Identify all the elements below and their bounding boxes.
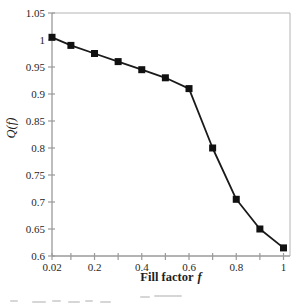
caption-fragment-dash	[85, 300, 93, 302]
data-series	[49, 34, 288, 252]
caption-fragment-dash	[68, 301, 80, 303]
data-point	[233, 196, 240, 203]
data-point	[162, 74, 169, 81]
data-point	[138, 66, 145, 73]
y-tick-label: 0.85	[26, 115, 46, 127]
data-point	[256, 226, 263, 233]
figure: 1.0510.950.90.850.80.750.70.650.60.020.2…	[0, 0, 304, 306]
caption-fragment-dash	[100, 301, 111, 303]
plot-frame	[52, 13, 290, 256]
x-tick-label: 0.8	[229, 261, 243, 273]
qf-vs-fill-factor-chart: 1.0510.950.90.850.80.750.70.650.60.020.2…	[0, 0, 304, 306]
x-tick-label: 0.02	[42, 261, 61, 273]
y-tick-label: 0.8	[31, 142, 45, 154]
data-point	[115, 58, 122, 65]
y-tick-label: 0.7	[31, 196, 45, 208]
caption-fragment-dash	[154, 295, 182, 297]
caption-fragment-dash	[140, 296, 150, 298]
x-axis-title-text: Fill factor	[140, 270, 194, 284]
y-tick-label: 0.65	[26, 223, 46, 235]
y-tick-label: 1.05	[26, 7, 46, 19]
caption-fragment-dash	[10, 300, 18, 302]
data-point	[209, 145, 216, 152]
x-axis-title-variable: f	[197, 270, 203, 284]
y-tick-label: 0.75	[26, 169, 46, 181]
data-point	[91, 50, 98, 57]
data-point	[67, 42, 74, 49]
data-point	[280, 244, 287, 251]
y-axis-title: Q(f)	[4, 118, 18, 139]
axis-tick-labels: 1.0510.950.90.850.80.750.70.650.60.020.2…	[26, 7, 287, 273]
x-tick-label: 1	[281, 261, 287, 273]
y-tick-label: 0.95	[26, 61, 46, 73]
y-tick-label: 0.6	[31, 250, 45, 262]
data-line	[52, 37, 284, 248]
caption-fragment-dash	[52, 300, 61, 302]
y-tick-label: 0.9	[31, 88, 45, 100]
x-tick-label: 0.2	[88, 261, 102, 273]
data-point	[49, 34, 56, 41]
y-tick-label: 1	[40, 34, 46, 46]
data-point	[186, 85, 193, 92]
caption-fragment-dash	[32, 301, 46, 303]
